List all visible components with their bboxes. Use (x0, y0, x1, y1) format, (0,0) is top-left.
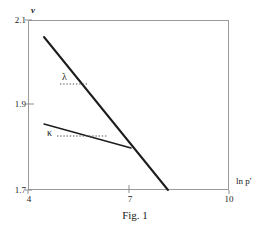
figure-container: v 2.1 1.9 1.7 4 7 10 ln p' λ κ Fig. 1 (0, 0, 270, 232)
lambda-line (44, 37, 168, 190)
plot-lines-svg (0, 0, 270, 232)
figure-caption: Fig. 1 (0, 209, 270, 221)
